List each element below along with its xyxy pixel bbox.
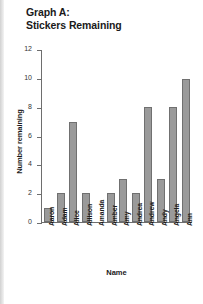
x-axis-tick-label: Allison <box>86 204 93 226</box>
bar-slot <box>167 50 180 222</box>
chart-title-line-2: Stickers Remaining <box>26 19 196 32</box>
bar-slot <box>42 50 55 222</box>
x-axis-tick-label: Aaron <box>48 207 55 226</box>
bars-container <box>42 50 192 222</box>
bar-slot <box>155 50 168 222</box>
x-axis-tick-label: Andrea <box>136 203 143 226</box>
x-axis-tick-label-slot: Andrea <box>130 225 143 269</box>
x-axis-tick-label-slot: Ann <box>180 225 193 269</box>
y-axis-tick-label: 6 <box>28 132 32 139</box>
x-axis-tick-label-slot: Alice <box>67 225 80 269</box>
y-axis-tick-label: 8 <box>28 103 32 110</box>
bar-slot <box>117 50 130 222</box>
bar <box>182 79 190 222</box>
bar-chart-figure: Graph A: Stickers Remaining Number remai… <box>0 0 203 304</box>
bar-slot <box>105 50 118 222</box>
bar-slot <box>55 50 68 222</box>
chart-title-line-1: Graph A: <box>26 6 196 19</box>
x-axis-tick-label-slot: Andy <box>155 225 168 269</box>
x-axis-tick-label-slot: Amy <box>117 225 130 269</box>
y-axis-tick: 0 <box>37 223 42 224</box>
chart-title: Graph A: Stickers Remaining <box>26 6 196 32</box>
x-axis-tick-label-slot: Andrew <box>142 225 155 269</box>
x-axis-tick-label: Amy <box>123 212 130 226</box>
x-axis-tick-label: Ann <box>186 213 193 226</box>
plot-area: 024681012 <box>41 50 192 223</box>
bar-slot <box>180 50 193 222</box>
x-axis-tick-labels: AaronAdamAliceAllisonAmandaAmberAmyAndre… <box>42 225 192 269</box>
y-axis-tick-label: 10 <box>24 74 32 81</box>
x-axis-tick-label-slot: Adam <box>55 225 68 269</box>
y-axis-tick-label: 4 <box>28 160 32 167</box>
x-axis-tick-label: Alice <box>73 210 80 226</box>
x-axis-tick-label-slot: Aaron <box>42 225 55 269</box>
bar-slot <box>67 50 80 222</box>
x-axis-tick-label: Adam <box>61 208 68 226</box>
bar-slot <box>80 50 93 222</box>
bar-slot <box>92 50 105 222</box>
bar-slot <box>130 50 143 222</box>
x-axis-tick-label-slot: Angela <box>167 225 180 269</box>
y-axis-label: Number remaining <box>15 92 24 192</box>
y-axis-tick-label: 0 <box>28 218 32 225</box>
x-axis-tick-label-slot: Amanda <box>92 225 105 269</box>
x-axis-tick-label: Amanda <box>98 200 105 226</box>
y-axis-tick-label: 12 <box>24 45 32 52</box>
x-axis-tick-label: Andy <box>161 209 168 226</box>
x-axis-tick-label: Amber <box>111 205 118 226</box>
x-axis-tick-label: Angela <box>173 204 180 226</box>
x-axis-tick-label-slot: Allison <box>80 225 93 269</box>
x-axis-tick-label: Andrew <box>148 202 155 226</box>
y-axis-tick-label: 2 <box>28 189 32 196</box>
bar-slot <box>142 50 155 222</box>
x-axis-tick-label-slot: Amber <box>105 225 118 269</box>
x-axis-label: Name <box>41 268 192 277</box>
bar <box>69 122 77 222</box>
